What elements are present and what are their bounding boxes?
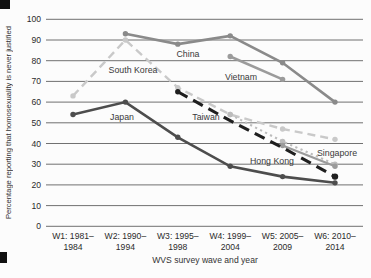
series-line-south-korea [73, 40, 335, 139]
y-tick-label-50: 50 [31, 118, 41, 128]
x-tick-label-w3: W3: 1995– [157, 231, 199, 241]
x-tick-label-w1-year: 1984 [63, 242, 82, 252]
series-label-taiwan: Taiwan [192, 112, 219, 122]
series-label-singapore: Singapore [317, 148, 357, 158]
series-marker-japan [123, 99, 128, 104]
x-tick-label-w4-year: 2004 [221, 242, 240, 252]
x-tick-label-w1: W1: 1981– [52, 231, 94, 241]
y-tick-label-0: 0 [36, 221, 41, 231]
series-marker-taiwan [175, 89, 180, 94]
series-marker-south-korea [123, 37, 128, 42]
x-tick-label-w5: W5: 2005– [262, 231, 304, 241]
series-label-hong-kong: Hong Kong [250, 156, 294, 166]
series-marker-china [228, 33, 233, 38]
y-tick-label-10: 10 [31, 201, 41, 211]
y-tick-label-100: 100 [27, 14, 42, 24]
series-marker-taiwan [332, 173, 338, 179]
y-tick-label-80: 80 [31, 56, 41, 66]
series-marker-japan [332, 180, 337, 185]
series-marker-china [175, 41, 180, 46]
y-tick-label-90: 90 [31, 35, 41, 45]
y-tick-label-40: 40 [31, 139, 41, 149]
series-marker-singapore [228, 112, 233, 117]
series-marker-south-korea [70, 93, 75, 98]
chart-canvas: 0102030405060708090100W1: 1981–1984W2: 1… [0, 0, 371, 278]
x-tick-label-w6: W6: 2010– [314, 231, 356, 241]
x-tick-label-w3-year: 1998 [168, 242, 187, 252]
x-tick-label-w4: W4: 1999– [209, 231, 251, 241]
series-marker-china [332, 99, 337, 104]
y-tick-label-70: 70 [31, 76, 41, 86]
series-marker-hong-kong [332, 164, 337, 169]
series-marker-vietnam [280, 77, 285, 82]
series-marker-japan [70, 112, 75, 117]
series-marker-south-korea [332, 137, 337, 142]
series-label-japan: Japan [110, 112, 134, 122]
y-tick-label-60: 60 [31, 97, 41, 107]
series-label-vietnam: Vietnam [225, 72, 257, 82]
series-marker-china [123, 31, 128, 36]
x-tick-label-w5-year: 2009 [273, 242, 292, 252]
x-tick-label-w2-year: 1994 [116, 242, 135, 252]
series-marker-hong-kong [280, 143, 285, 148]
x-tick-label-w2: W2: 1990– [105, 231, 147, 241]
series-marker-south-korea [280, 126, 285, 131]
x-axis-title: WVS survey wave and year [47, 255, 363, 265]
line-chart-figure: Percentage reporting that homosexuality … [0, 0, 371, 278]
x-tick-label-w6-year: 2014 [325, 242, 344, 252]
series-marker-japan [175, 135, 180, 140]
y-tick-label-30: 30 [31, 159, 41, 169]
series-marker-japan [280, 174, 285, 179]
series-marker-china [280, 60, 285, 65]
series-label-china: China [177, 49, 200, 59]
y-tick-label-20: 20 [31, 180, 41, 190]
series-marker-japan [228, 164, 233, 169]
series-label-south-korea: South Korea [109, 65, 158, 75]
series-marker-vietnam [228, 54, 233, 59]
